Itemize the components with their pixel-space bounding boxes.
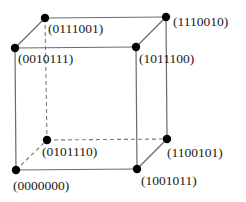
edge-ftr-btr bbox=[136, 17, 166, 47]
vertex-dot-fbl bbox=[12, 166, 20, 174]
edge-bbl-bbr bbox=[47, 139, 167, 140]
vertex-label-ftl: (0010111) bbox=[18, 51, 73, 66]
edge-ftr-fbr bbox=[136, 47, 137, 169]
vertex-label-btr: (1110010) bbox=[173, 14, 228, 29]
vertex-dot-bbl bbox=[43, 136, 51, 144]
vertex-dot-fbr bbox=[133, 165, 141, 173]
vertex-label-btl: (0111001) bbox=[48, 21, 103, 36]
vertex-label-bbl: (0101110) bbox=[42, 144, 97, 159]
vertex-dot-bbr bbox=[163, 135, 171, 143]
vertex-label-ftr: (1011100) bbox=[139, 51, 194, 66]
edge-btl-bbl bbox=[45, 18, 47, 140]
edge-fbr-bbr bbox=[137, 139, 167, 169]
cube-diagram: (0111001) (0010111) (1110010) (1011100) … bbox=[0, 0, 246, 202]
edge-btr-bbr bbox=[166, 17, 167, 139]
cube-svg: (0111001) (0010111) (1110010) (1011100) … bbox=[0, 0, 246, 202]
edge-ftl-ftr bbox=[15, 47, 136, 48]
edge-fbl-ftl bbox=[15, 48, 16, 170]
vertex-dot-btr bbox=[162, 13, 170, 21]
edge-btl-btr bbox=[45, 17, 166, 18]
edge-fbr-fbl bbox=[16, 169, 137, 170]
vertex-label-fbr: (1001011) bbox=[141, 173, 197, 188]
vertex-label-bbr: (1100101) bbox=[167, 145, 223, 160]
edge-ftl-btl bbox=[15, 18, 45, 48]
vertex-dot-ftr bbox=[132, 43, 140, 51]
vertex-label-fbl: (0000000) bbox=[13, 178, 69, 193]
